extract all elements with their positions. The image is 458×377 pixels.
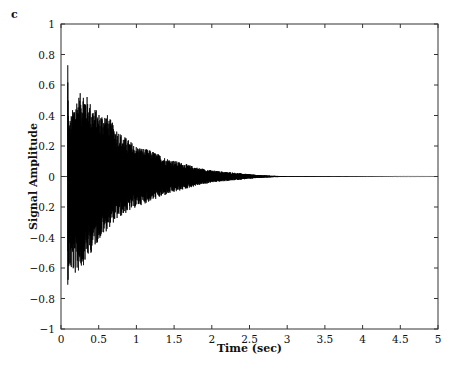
x-tick-label: 3.5 [317,333,334,345]
y-tick-label: −0.8 [30,293,56,305]
y-tick-label: −0.4 [30,232,56,244]
x-axis-label: Time (sec) [217,342,282,355]
y-tick-label: 0.8 [38,49,55,61]
y-tick-label: 0.2 [38,140,55,152]
x-tick-label: 1.5 [166,333,183,345]
signal-amplitude-chart: c 00.511.522.533.544.55 −1−0.8−0.6−0.4−0… [0,0,458,377]
x-tick-label: 5 [435,333,442,345]
signal-trace [61,82,438,279]
signal-waveform [61,65,438,285]
y-tick-label: −0.6 [30,262,56,274]
x-tick-label: 1 [133,333,140,345]
x-tick-label: 0.5 [90,333,107,345]
panel-label: c [11,8,18,21]
x-tick-label: 4.5 [392,333,409,345]
y-tick-label: −1 [40,323,55,335]
y-tick-label: 0.6 [38,79,55,91]
x-tick-label: 0 [58,333,65,345]
x-tick-label: 3 [284,333,291,345]
x-tick-label: 4 [359,333,366,345]
x-tick-label: 2 [208,333,215,345]
y-axis-label: Signal Amplitude [27,123,40,230]
y-tick-label: 0 [48,171,55,183]
y-tick-label: 0.4 [38,110,55,122]
y-tick-label: 1 [48,18,55,30]
